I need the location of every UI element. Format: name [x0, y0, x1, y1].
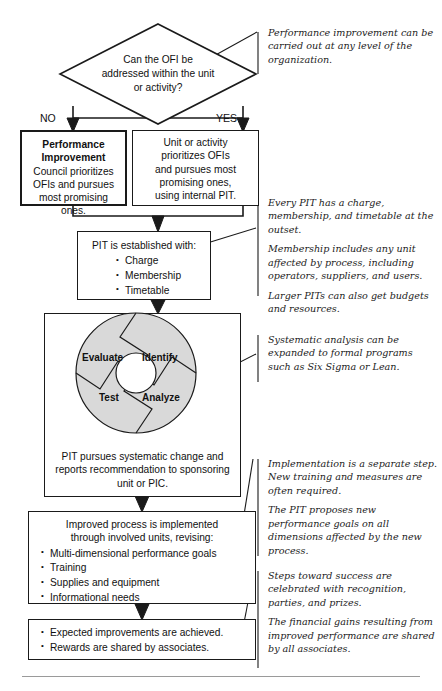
- no-branch-body-1: Council prioritizes: [26, 165, 121, 178]
- ofi-decision-diamond[interactable]: Can the OFI be addressed within the unit…: [58, 22, 258, 126]
- pit-bullet-membership: Membership: [116, 269, 204, 284]
- box-pit-established[interactable]: PIT is established with: Charge Membersh…: [77, 231, 211, 300]
- wheel-label-identify: Identify: [142, 352, 178, 363]
- annotation-pit-charter-p1: Every PIT has a charge, membership, and …: [268, 196, 438, 236]
- annotation-rewards-p2: The financial gains resulting from impro…: [268, 615, 438, 655]
- results-bullet-rewards: Rewards are shared by associates.: [41, 641, 249, 656]
- no-branch-body-2: OFIs and pursues: [26, 178, 121, 191]
- improved-bullet-info: Informational needs: [41, 591, 249, 606]
- pit-established-heading: PIT is established with:: [84, 239, 204, 252]
- annotation-implementation: Implementation is a separate step. New t…: [268, 457, 438, 557]
- decision-line-3: or activity?: [134, 81, 183, 95]
- bottom-divider-rule: [22, 676, 420, 677]
- results-bullet-list: Expected improvements are achieved. Rewa…: [41, 626, 249, 656]
- yes-branch-body-5: using internal PIT.: [137, 189, 254, 202]
- decision-line-1: Can the OFI be: [123, 53, 193, 67]
- annotation-implementation-p2: The PIT proposes new performance goals o…: [268, 503, 438, 557]
- decision-line-2: addressed within the unit: [102, 67, 215, 81]
- improvement-cycle-wheel: Identify Analyze Test Evaluate: [74, 311, 198, 435]
- annotation-performance-level-p1: Performance improvement can be carried o…: [268, 26, 438, 66]
- pit-pursues-line-1: PIT pursues systematic change and: [45, 450, 240, 463]
- branch-label-no: NO: [40, 112, 56, 124]
- yes-branch-body-3: and pursues most: [137, 163, 254, 176]
- improved-heading-2: through involved units, revising:: [35, 531, 249, 544]
- annotation-systematic-analysis: Systematic analysis can be expanded to f…: [268, 333, 438, 373]
- wheel-label-evaluate: Evaluate: [82, 352, 123, 363]
- pit-pursues-text: PIT pursues systematic change and report…: [45, 450, 240, 490]
- no-branch-body-3: most promising ones.: [26, 191, 121, 218]
- annotation-rewards-p1: Steps toward success are celebrated with…: [268, 569, 438, 609]
- branch-label-yes: YES: [216, 112, 237, 124]
- pit-bullet-timetable: Timetable: [116, 284, 204, 299]
- yes-branch-body-2: prioritizes OFIs: [137, 149, 254, 162]
- no-branch-heading-1: Performance: [26, 138, 121, 151]
- no-branch-heading-2: Improvement: [26, 151, 121, 164]
- annotation-pit-charter-p3: Larger PITs can also get budgets and res…: [268, 289, 438, 316]
- annotation-pit-charter-p2: Membership includes any unit affected by…: [268, 242, 438, 282]
- pit-established-bullet-list: Charge Membership Timetable: [116, 254, 204, 298]
- box-performance-improvement-council[interactable]: Performance Improvement Council prioriti…: [20, 130, 127, 206]
- annotation-rewards: Steps toward success are celebrated with…: [268, 569, 438, 656]
- flowchart-canvas: Can the OFI be addressed within the unit…: [0, 0, 442, 691]
- annotation-implementation-p1: Implementation is a separate step. New t…: [268, 457, 438, 497]
- yes-branch-body-4: promising ones,: [137, 176, 254, 189]
- box-unit-or-activity[interactable]: Unit or activity prioritizes OFIs and pu…: [132, 130, 259, 206]
- box-improved-process[interactable]: Improved process is implemented through …: [28, 511, 256, 604]
- yes-branch-body-1: Unit or activity: [137, 136, 254, 149]
- improved-bullet-supplies: Supplies and equipment: [41, 576, 249, 591]
- annotation-systematic-analysis-p1: Systematic analysis can be expanded to f…: [268, 333, 438, 373]
- improved-process-bullet-list: Multi-dimensional performance goals Trai…: [41, 547, 249, 606]
- results-bullet-improvements: Expected improvements are achieved.: [41, 626, 249, 641]
- improved-bullet-training: Training: [41, 561, 249, 576]
- annotation-performance-level: Performance improvement can be carried o…: [268, 26, 438, 66]
- pit-bullet-charge: Charge: [116, 254, 204, 269]
- improved-bullet-goals: Multi-dimensional performance goals: [41, 547, 249, 562]
- annotation-pit-charter: Every PIT has a charge, membership, and …: [268, 196, 438, 315]
- wheel-label-test: Test: [99, 392, 119, 403]
- wheel-label-analyze: Analyze: [142, 392, 180, 403]
- pinwheel-shape: [74, 311, 198, 435]
- ofi-decision-text: Can the OFI be addressed within the unit…: [58, 22, 258, 126]
- pit-pursues-line-3: unit or PIC.: [45, 477, 240, 490]
- improved-heading-1: Improved process is implemented: [35, 518, 249, 531]
- box-results[interactable]: Expected improvements are achieved. Rewa…: [28, 619, 256, 660]
- pit-pursues-line-2: reports recommendation to sponsoring: [45, 463, 240, 476]
